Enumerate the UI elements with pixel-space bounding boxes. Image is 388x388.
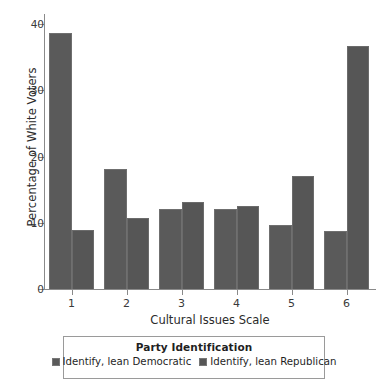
bar-5-series1 <box>269 225 292 289</box>
legend-title: Party Identification <box>64 341 324 353</box>
y-tick-label: 10 <box>14 218 44 228</box>
x-tick-label: 2 <box>107 297 147 310</box>
x-tick-label: 1 <box>52 297 92 310</box>
legend-item-2[interactable]: Identify, lean Republican <box>199 356 336 367</box>
x-tick <box>72 289 73 295</box>
bar-3-series2 <box>182 202 205 289</box>
bar-2-series2 <box>127 218 150 289</box>
x-tick-label: 3 <box>162 297 202 310</box>
legend-swatch-icon <box>199 358 207 366</box>
x-tick <box>182 289 183 295</box>
bar-1-series2 <box>72 230 95 289</box>
x-tick <box>347 289 348 295</box>
bar-3-series1 <box>159 209 182 289</box>
plot-area <box>44 14 374 289</box>
y-tick-label: 30 <box>14 85 44 95</box>
bar-6-series1 <box>324 231 347 289</box>
legend-swatch-icon <box>52 358 60 366</box>
x-axis-title: Cultural Issues Scale <box>44 313 376 327</box>
x-tick <box>292 289 293 295</box>
legend-items: Identify, lean DemocraticIdentify, lean … <box>64 356 324 367</box>
bar-6-series2 <box>347 46 370 289</box>
y-tick-label: 20 <box>14 152 44 162</box>
x-axis-line <box>44 289 376 290</box>
legend-item-label: Identify, lean Republican <box>210 356 336 367</box>
y-tick-label: 0 <box>14 284 44 294</box>
bar-5-series2 <box>292 176 315 289</box>
legend-item-label: Identify, lean Democratic <box>63 356 192 367</box>
bar-4-series1 <box>214 209 237 289</box>
y-axis-ticks: 010203040 <box>0 0 44 388</box>
legend-item-1[interactable]: Identify, lean Democratic <box>52 356 192 367</box>
x-tick <box>237 289 238 295</box>
x-tick <box>127 289 128 295</box>
legend: Party Identification Identify, lean Demo… <box>63 336 325 379</box>
x-tick-label: 6 <box>327 297 367 310</box>
y-tick-label: 40 <box>14 19 44 29</box>
bar-1-series1 <box>49 33 72 289</box>
x-tick-label: 4 <box>217 297 257 310</box>
bar-chart-figure: Percentage of White Voters 010203040 123… <box>0 0 388 388</box>
bar-2-series1 <box>104 169 127 289</box>
x-tick-label: 5 <box>272 297 312 310</box>
bar-4-series2 <box>237 206 260 289</box>
